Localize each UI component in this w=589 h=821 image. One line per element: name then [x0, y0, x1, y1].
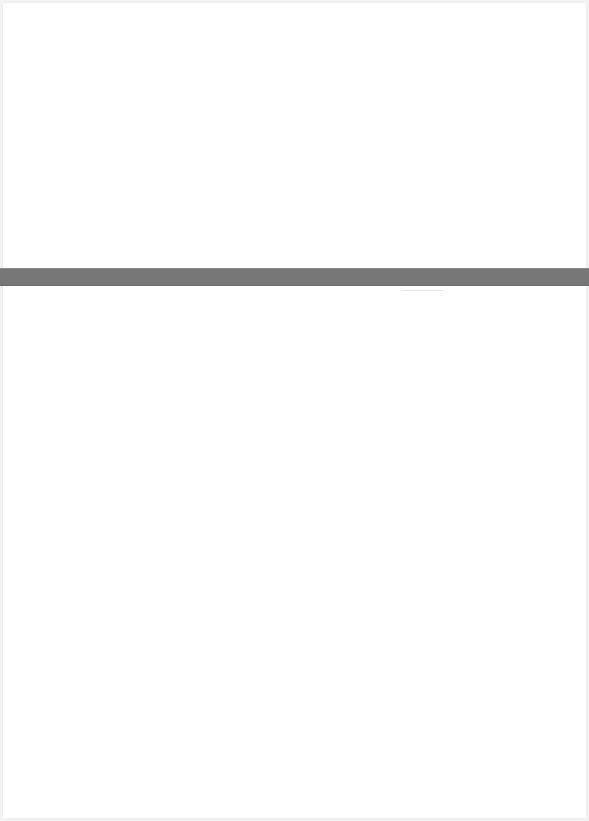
horizontal-gray-band	[0, 268, 589, 286]
faint-mark	[402, 290, 444, 291]
blank-page	[3, 3, 586, 818]
